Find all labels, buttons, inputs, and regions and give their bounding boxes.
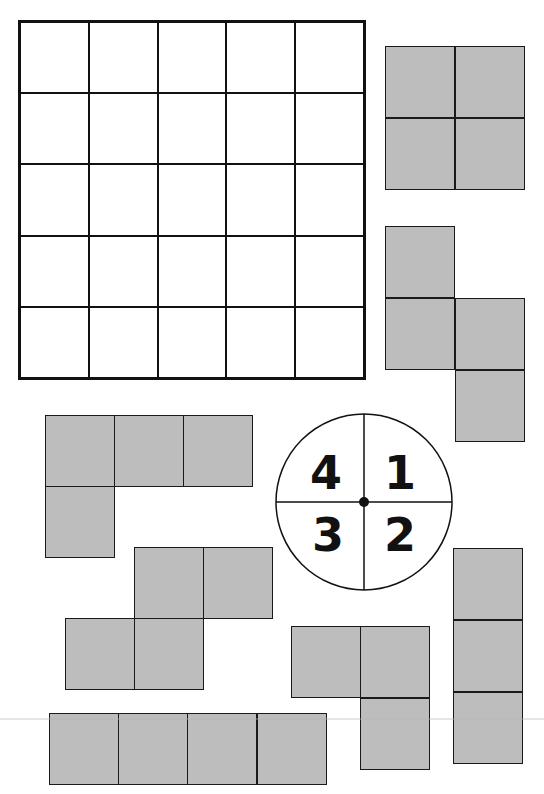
board-cell[interactable] bbox=[89, 307, 158, 378]
board-cell[interactable] bbox=[295, 164, 364, 235]
piece-cell bbox=[455, 298, 525, 370]
board-cell[interactable] bbox=[158, 236, 227, 307]
board-cell[interactable] bbox=[20, 93, 89, 164]
spinner-label-3: 3 bbox=[303, 512, 353, 558]
board-cell[interactable] bbox=[226, 236, 295, 307]
piece-cell bbox=[291, 626, 361, 698]
piece-cell bbox=[453, 692, 523, 764]
piece-cell bbox=[183, 415, 253, 487]
piece-cell bbox=[385, 298, 455, 370]
piece-cell bbox=[385, 46, 455, 118]
spinner[interactable]: 4 1 3 2 bbox=[275, 412, 453, 592]
board-cell[interactable] bbox=[158, 164, 227, 235]
piece-cell bbox=[45, 486, 115, 558]
scan-artifact-line bbox=[0, 718, 544, 720]
spinner-dial-icon bbox=[275, 412, 453, 592]
board-cell[interactable] bbox=[158, 93, 227, 164]
piece-cell bbox=[114, 415, 184, 487]
piece-cell bbox=[453, 548, 523, 620]
piece-cell bbox=[455, 370, 525, 442]
piece-cell bbox=[45, 415, 115, 487]
piece-cell bbox=[385, 226, 455, 298]
spinner-label-1: 1 bbox=[375, 450, 425, 496]
piece-cell bbox=[360, 698, 430, 770]
board-cell[interactable] bbox=[20, 22, 89, 93]
piece-cell bbox=[455, 46, 525, 118]
piece-cell bbox=[118, 713, 188, 785]
piece-cell bbox=[360, 626, 430, 698]
spinner-label-2: 2 bbox=[375, 512, 425, 558]
board-cell[interactable] bbox=[89, 236, 158, 307]
piece-cell bbox=[385, 118, 455, 190]
board-cell[interactable] bbox=[295, 22, 364, 93]
board-cell[interactable] bbox=[89, 22, 158, 93]
piece-cell bbox=[203, 547, 273, 619]
board-cell[interactable] bbox=[226, 164, 295, 235]
piece-cell bbox=[257, 713, 327, 785]
spinner-pivot bbox=[359, 497, 369, 507]
board-cell[interactable] bbox=[158, 22, 227, 93]
piece-cell bbox=[134, 547, 204, 619]
piece-cell bbox=[134, 618, 204, 690]
board-cell[interactable] bbox=[226, 22, 295, 93]
piece-cell bbox=[453, 620, 523, 692]
board-cell[interactable] bbox=[295, 93, 364, 164]
board-cell[interactable] bbox=[20, 307, 89, 378]
board-cell[interactable] bbox=[89, 93, 158, 164]
board-cell[interactable] bbox=[20, 164, 89, 235]
board-cell[interactable] bbox=[226, 307, 295, 378]
spinner-label-4: 4 bbox=[301, 450, 351, 496]
board-cell[interactable] bbox=[295, 307, 364, 378]
board-cell[interactable] bbox=[20, 236, 89, 307]
piece-cell bbox=[49, 713, 119, 785]
board-cell[interactable] bbox=[226, 93, 295, 164]
game-board-5x5[interactable] bbox=[18, 20, 366, 380]
board-cell[interactable] bbox=[89, 164, 158, 235]
piece-cell bbox=[187, 713, 257, 785]
board-cell[interactable] bbox=[295, 236, 364, 307]
piece-cell bbox=[65, 618, 135, 690]
board-cell[interactable] bbox=[158, 307, 227, 378]
piece-cell bbox=[455, 118, 525, 190]
